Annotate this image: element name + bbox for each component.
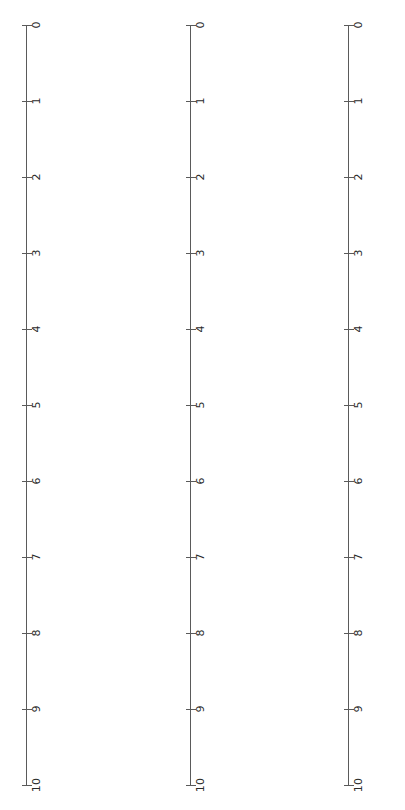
axis-right-tick-label-text: 9 [353,705,364,712]
axis-middle: 012345678910 [190,0,310,810]
axis-middle-tick-label-text: 5 [195,401,206,408]
axis-right-tick-label: 10 [353,771,364,785]
axis-right-tick-label-text: 4 [353,325,364,332]
axis-right-tick-label-text: 0 [353,21,364,28]
axis-right-tick-label-text: 8 [353,629,364,636]
axis-middle-tick-label-text: 2 [195,173,206,180]
axis-middle-tick-label-text: 4 [195,325,206,332]
axis-right-tick-label-text: 7 [353,553,364,560]
axis-middle-tick-label: 6 [195,474,206,481]
axis-left: 012345678910 [26,0,146,810]
axis-left-tick-label-text: 6 [31,477,42,484]
axis-middle-tick-label-text: 6 [195,477,206,484]
axis-right-tick-label-text: 3 [353,249,364,256]
axis-middle-tick-label-text: 7 [195,553,206,560]
axis-right-tick-label: 2 [353,170,364,177]
axis-right-tick-label-text: 10 [353,778,364,792]
axis-left-tick-label: 5 [31,398,42,405]
axis-left-tick-label-text: 1 [31,97,42,104]
axis-middle-tick-label-text: 9 [195,705,206,712]
axis-left-tick-label: 0 [31,18,42,25]
axis-right-tick-label: 9 [353,702,364,709]
axis-middle-tick-label-text: 1 [195,97,206,104]
axis-right-tick-label-text: 5 [353,401,364,408]
axis-right-tick-label: 7 [353,550,364,557]
axis-middle-tick-label-text: 10 [195,778,206,792]
axis-left-tick-label-text: 10 [31,778,42,792]
axis-left-tick-label-text: 0 [31,21,42,28]
axis-left-tick-label-text: 4 [31,325,42,332]
axis-right: 012345678910 [348,0,405,810]
axis-left-tick-label: 7 [31,550,42,557]
axis-left-tick-label-text: 9 [31,705,42,712]
axis-right-tick-label: 0 [353,18,364,25]
axis-right-tick-label: 3 [353,246,364,253]
axis-right-tick-label: 6 [353,474,364,481]
axis-left-tick-label-text: 8 [31,629,42,636]
axis-middle-tick-label: 0 [195,18,206,25]
axis-left-tick-label: 2 [31,170,42,177]
axis-right-tick-label: 4 [353,322,364,329]
axis-left-tick-label: 9 [31,702,42,709]
axis-middle-tick-label: 5 [195,398,206,405]
axis-left-tick-label: 10 [31,771,42,785]
axis-left-tick-label: 8 [31,626,42,633]
axis-middle-tick-label: 7 [195,550,206,557]
axis-right-tick-label-text: 1 [353,97,364,104]
axis-middle-tick-label: 2 [195,170,206,177]
figure-canvas: 012345678910012345678910012345678910 [0,0,405,810]
axis-right-tick-label-text: 2 [353,173,364,180]
axis-middle-tick-label: 9 [195,702,206,709]
axis-middle-tick-label-text: 0 [195,21,206,28]
axis-middle-tick-label: 10 [195,771,206,785]
axis-left-tick-label-text: 7 [31,553,42,560]
axis-left-tick-label: 1 [31,94,42,101]
axis-right-tick-label-text: 6 [353,477,364,484]
axis-left-tick-label: 3 [31,246,42,253]
axis-middle-tick-label: 1 [195,94,206,101]
axis-middle-tick-label: 3 [195,246,206,253]
axis-left-tick-label: 6 [31,474,42,481]
axis-left-tick-label: 4 [31,322,42,329]
axis-right-tick-label: 5 [353,398,364,405]
axis-left-tick-label-text: 3 [31,249,42,256]
axis-middle-tick-label: 8 [195,626,206,633]
axis-left-tick-label-text: 5 [31,401,42,408]
axis-middle-tick-label-text: 8 [195,629,206,636]
axis-middle-tick-label-text: 3 [195,249,206,256]
axis-right-tick-label: 1 [353,94,364,101]
axis-middle-tick-label: 4 [195,322,206,329]
axis-left-tick-label-text: 2 [31,173,42,180]
axis-right-tick-label: 8 [353,626,364,633]
